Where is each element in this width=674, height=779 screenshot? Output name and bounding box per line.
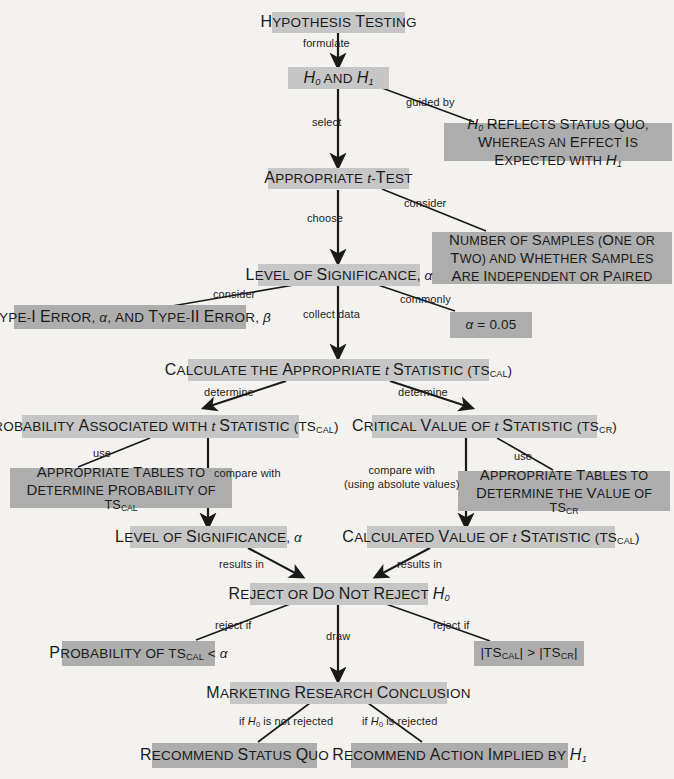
node-calculate-ts-cal[interactable]: CALCULATE THE APPROPRIATE t STATISTIC (T… [188, 359, 489, 381]
edge-label-if-h0-rejected: if H0 is rejected [362, 715, 437, 729]
edge-label-compare-with-right: compare with (using absolute values) [344, 464, 459, 492]
node-reject-or-not[interactable]: REJECT OR DO NOT REJECT H0 [250, 583, 428, 605]
node-alpha-value-label: α = 0.05 [459, 317, 524, 333]
edge-label-formulate: formulate [303, 37, 350, 49]
node-hypothesis-testing[interactable]: HYPOTHESIS TESTING [272, 12, 405, 33]
node-recommend-status-quo[interactable]: RECOMMEND STATUS QUO [152, 743, 317, 768]
edge-label-compare-with-right-line2: (using absolute values) [344, 478, 459, 492]
node-number-of-samples[interactable]: NUMBER OF SAMPLES (ONE OR TWO) AND WHETH… [432, 232, 672, 284]
edge-label-compare-with-right-line1: compare with [344, 464, 459, 478]
node-calculated-value-ts-cal[interactable]: CALCULATED VALUE OF t STATISTIC (TSCAL) [367, 526, 615, 548]
edge-label-use-left: use [93, 447, 111, 459]
flowchart-canvas: HYPOTHESIS TESTING H0 AND H1 H0 REFLECTS… [0, 0, 674, 779]
node-h0-and-h1-label: H0 AND H1 [296, 69, 380, 88]
node-number-of-samples-label: NUMBER OF SAMPLES (ONE OR TWO) AND WHETH… [432, 231, 672, 285]
node-appropriate-t-test-label: APPROPRIATE t-TEST [257, 169, 419, 188]
node-hypothesis-testing-label: HYPOTHESIS TESTING [253, 13, 423, 32]
node-probability-less-alpha-label: PROBABILITY OF TSCAL < α [42, 644, 234, 663]
edge-label-commonly: commonly [400, 293, 451, 305]
node-critical-value-ts-cr[interactable]: CRITICAL VALUE OF t STATISTIC (TSCR) [372, 415, 597, 438]
node-abs-ts-cal-gt-ts-cr[interactable]: |TSCAL| > |TSCR| [474, 641, 584, 666]
node-reject-or-not-label: REJECT OR DO NOT REJECT H0 [222, 585, 457, 604]
node-marketing-conclusion-label: MARKETING RESEARCH CONCLUSION [199, 684, 477, 703]
node-type-i-type-ii-error-label: TYPE-I ERROR, α, AND TYPE-II ERROR, β [0, 308, 278, 327]
node-marketing-conclusion[interactable]: MARKETING RESEARCH CONCLUSION [230, 682, 447, 704]
node-tables-probability-ts-cal[interactable]: APPROPRIATE TABLES TO DETERMINE PROBABIL… [10, 468, 232, 508]
node-probability-less-alpha[interactable]: PROBABILITY OF TSCAL < α [62, 641, 215, 666]
node-appropriate-t-test[interactable]: APPROPRIATE t-TEST [268, 168, 409, 189]
node-probability-ts-cal[interactable]: PROBABILITY ASSOCIATED WITH t STATISTIC … [22, 415, 299, 438]
edge-label-select: select [312, 116, 341, 128]
node-level-of-significance-2-label: LEVEL OF SIGNIFICANCE, α [108, 528, 309, 547]
node-tables-value-ts-cr-label: APPROPRIATE TABLES TO DETERMINE THE VALU… [458, 466, 670, 517]
edge-label-results-in-left: results in [219, 558, 264, 570]
node-level-of-significance-1[interactable]: LEVEL OF SIGNIFICANCE, α [258, 264, 420, 286]
node-critical-value-ts-cr-label: CRITICAL VALUE OF t STATISTIC (TSCR) [345, 417, 624, 436]
node-alpha-value[interactable]: α = 0.05 [450, 312, 532, 338]
edge-label-draw: draw [326, 630, 350, 642]
edge-label-reject-if-right: reject if [433, 619, 469, 631]
node-h0-reflects-status-quo-label: H0 REFLECTS STATUS QUO, WHEREAS AN EFFEC… [444, 115, 672, 169]
edge-label-choose: choose [307, 212, 343, 224]
edge-label-collect-data: collect data [303, 308, 360, 320]
node-calculated-value-ts-cal-label: CALCULATED VALUE OF t STATISTIC (TSCAL) [335, 528, 646, 547]
node-h0-and-h1[interactable]: H0 AND H1 [288, 67, 389, 89]
node-recommend-status-quo-label: RECOMMEND STATUS QUO [133, 746, 336, 765]
node-tables-probability-ts-cal-label: APPROPRIATE TABLES TO DETERMINE PROBABIL… [10, 463, 232, 514]
node-calculate-ts-cal-label: CALCULATE THE APPROPRIATE t STATISTIC (T… [158, 361, 519, 380]
node-h0-reflects-status-quo[interactable]: H0 REFLECTS STATUS QUO, WHEREAS AN EFFEC… [444, 123, 672, 161]
node-recommend-action-h1-label: RECOMMEND ACTION IMPLIED BY H1 [325, 746, 593, 765]
edge-consider-samples [382, 189, 486, 231]
edge-label-if-h0-not-rejected: if H0 is not rejected [239, 715, 333, 729]
edge-label-guided-by: guided by [406, 96, 455, 108]
node-recommend-action-h1[interactable]: RECOMMEND ACTION IMPLIED BY H1 [351, 743, 568, 768]
node-probability-ts-cal-label: PROBABILITY ASSOCIATED WITH t STATISTIC … [0, 417, 346, 436]
edge-label-consider-samples: consider [404, 197, 446, 209]
edge-label-compare-with-left: compare with [214, 467, 281, 479]
node-type-i-type-ii-error[interactable]: TYPE-I ERROR, α, AND TYPE-II ERROR, β [14, 305, 246, 329]
edge-label-use-right: use [514, 450, 532, 462]
edge-label-determine-right: determine [398, 386, 448, 398]
node-tables-value-ts-cr[interactable]: APPROPRIATE TABLES TO DETERMINE THE VALU… [458, 471, 670, 511]
edge-label-determine-left: determine [204, 386, 254, 398]
edge-label-consider-errors: consider [213, 288, 255, 300]
edge-label-results-in-right: results in [397, 558, 442, 570]
node-level-of-significance-1-label: LEVEL OF SIGNIFICANCE, α [239, 266, 440, 285]
node-level-of-significance-2[interactable]: LEVEL OF SIGNIFICANCE, α [130, 526, 287, 548]
edge-label-reject-if-left: reject if [215, 619, 251, 631]
node-abs-ts-cal-gt-ts-cr-label: |TSCAL| > |TSCR| [473, 645, 584, 662]
